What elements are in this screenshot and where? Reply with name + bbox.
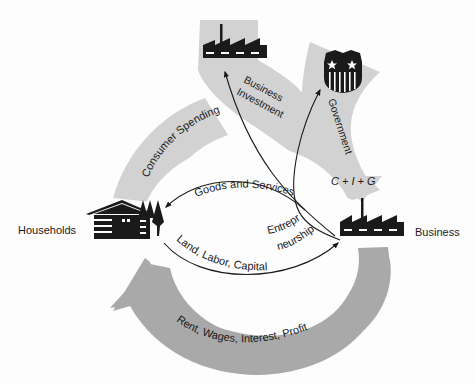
business-label: Business xyxy=(415,226,460,238)
households-label: Households xyxy=(18,224,76,236)
cig-label: C + I + G xyxy=(331,175,376,187)
diagram-canvas: Consumer Spending Business Investment Go… xyxy=(0,0,475,384)
shield-with-stars-icon xyxy=(324,50,362,93)
circular-flow-diagram: Consumer Spending Business Investment Go… xyxy=(0,0,475,384)
